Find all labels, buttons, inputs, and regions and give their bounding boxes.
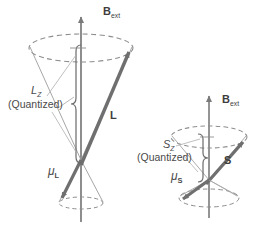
s-projection-guide [209, 180, 237, 196]
mu-l-vector-arrow [62, 160, 81, 198]
mu-s-label: μS [171, 170, 183, 185]
cone-edge-left-lower-b [81, 160, 103, 202]
b-ext-subscript-right: ext [230, 100, 239, 107]
b-ext-subscript-left: ext [111, 12, 120, 19]
sz-brace-right [198, 134, 208, 182]
b-ext-label-left: Bext [103, 6, 120, 20]
lz-leader-line-c [52, 112, 76, 152]
l-vector-label: L [110, 110, 117, 121]
b-ext-label-right: Bext [222, 94, 239, 108]
orbital-diagram-group [29, 17, 133, 222]
s-vector-label: S [224, 155, 231, 166]
lz-leader-line-b [47, 55, 76, 96]
lz-brace-left [71, 45, 81, 163]
lz-quantized-note: (Quantized) [8, 99, 63, 110]
sz-quantized-note: (Quantized) [137, 152, 192, 163]
mu-s-subscript: S [178, 176, 183, 185]
vector-diagram-svg [0, 0, 262, 227]
lz-label: LZ [31, 85, 41, 99]
mu-l-subscript: L [55, 171, 60, 180]
mu-l-label: μL [48, 165, 59, 180]
sz-leader-line-b [176, 139, 200, 146]
l-vector-arrow [81, 52, 129, 165]
figure-canvas: Bext LZ (Quantized) L μL Bext SZ (Quanti… [0, 0, 262, 227]
